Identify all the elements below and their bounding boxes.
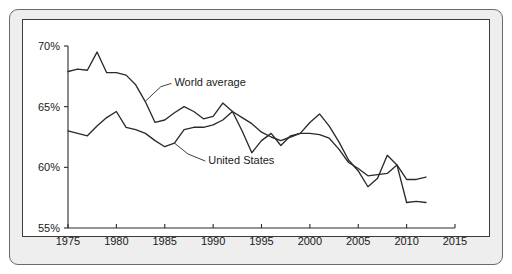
x-tick-label: 2005 [346, 235, 370, 247]
y-tick-label: 55% [38, 222, 60, 234]
x-tick-label: 2010 [394, 235, 418, 247]
y-tick-label: 60% [38, 161, 60, 173]
chart-series-group [68, 52, 426, 202]
y-tick-label: 70% [38, 40, 60, 52]
x-tick-label: 1990 [201, 235, 225, 247]
series-line-united-states [68, 112, 426, 180]
x-tick-label: 1995 [249, 235, 273, 247]
y-tick-label: 65% [38, 101, 60, 113]
annotation-leader-line [145, 83, 171, 101]
chart-annotations: World averageUnited States [145, 76, 274, 166]
annotation-leader-line [174, 143, 205, 161]
chart-axes [68, 46, 455, 228]
x-tick-label: 2015 [443, 235, 467, 247]
series-annotation-label: United States [208, 154, 275, 166]
x-tick-label: 1980 [104, 235, 128, 247]
x-tick-label: 1975 [56, 235, 80, 247]
series-line-world-average [68, 52, 426, 202]
line-chart: 55%60%65%70% 197519801985199019952000200… [0, 0, 512, 274]
x-tick-label: 2000 [298, 235, 322, 247]
x-tick-label: 1985 [153, 235, 177, 247]
figure-root: 55%60%65%70% 197519801985199019952000200… [0, 0, 512, 274]
y-axis-ticks: 55%60%65%70% [38, 40, 68, 234]
series-annotation-label: World average [174, 76, 245, 88]
